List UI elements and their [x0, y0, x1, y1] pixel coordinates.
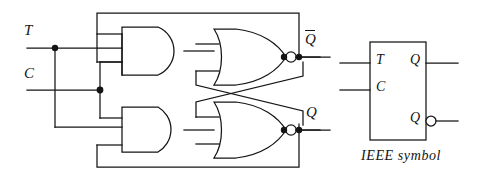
figure-canvas: T C Q Q T C Q Q IEEE symbol	[0, 0, 481, 182]
junction-dot-c	[97, 87, 104, 94]
and-gate-top	[97, 27, 214, 75]
junction-dot-qbar-a	[281, 54, 287, 60]
input-wire-t	[27, 48, 122, 127]
junction-dot-qbar-b	[296, 54, 302, 60]
ieee-symbol-caption: IEEE symbol	[361, 148, 441, 164]
input-label-c: C	[24, 65, 34, 82]
input-wire-c	[27, 62, 122, 118]
ieee-output-label-q: Q	[410, 52, 420, 68]
ieee-input-label-c: C	[376, 79, 385, 95]
ieee-input-label-t: T	[376, 52, 384, 68]
feedback-wire-top	[97, 13, 299, 62]
junction-dot-q-a	[281, 127, 287, 133]
output-label-qbar-text: Q	[305, 31, 316, 48]
and-gate-bottom	[122, 107, 214, 152]
ieee-symbol-block	[340, 42, 458, 140]
output-label-q: Q	[306, 104, 317, 121]
junction-dots	[52, 45, 302, 133]
ieee-output-bubble	[426, 116, 436, 126]
ieee-output-label-qnot: Q	[410, 110, 420, 126]
junction-dot-q-b	[296, 127, 302, 133]
junction-dot-t	[52, 45, 58, 51]
input-label-t: T	[24, 22, 32, 39]
output-label-qbar: Q	[305, 31, 316, 48]
